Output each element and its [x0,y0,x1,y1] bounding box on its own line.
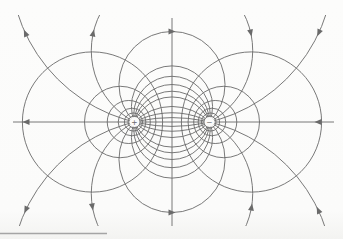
arrowhead-icon [315,119,322,125]
arrowhead-icon [21,29,29,38]
minus-sign-icon: − [206,118,212,127]
arrowhead-icon [22,206,30,215]
charge-marker-positive: + [130,117,140,127]
dipole-field-diagram: +− [0,0,343,239]
arrowhead-icon [23,119,30,125]
charge-marker-negative: − [205,117,215,127]
arrowhead-icon [247,29,254,37]
arrowhead-icon [315,29,323,38]
arrowhead-icon [314,206,322,215]
arrowhead-icon [89,203,96,211]
arrowhead-icon [90,29,97,37]
plus-sign-icon: + [131,118,137,127]
dipole-diagram-svg: +− [0,0,343,239]
